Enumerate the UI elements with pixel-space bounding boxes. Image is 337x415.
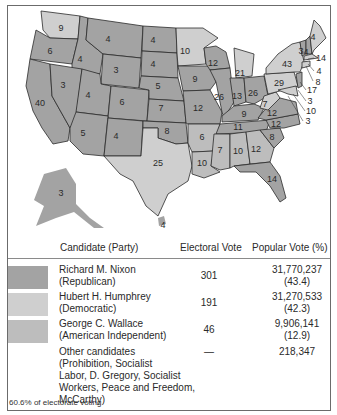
header-candidate: Candidate (Party) — [60, 242, 138, 253]
svg-text:4: 4 — [150, 59, 155, 69]
svg-text:4: 4 — [150, 35, 155, 45]
svg-text:14: 14 — [316, 53, 326, 63]
svg-text:12: 12 — [267, 108, 277, 118]
svg-text:10: 10 — [197, 158, 207, 168]
electoral-vote: 191 — [184, 297, 234, 309]
svg-text:4: 4 — [113, 131, 118, 141]
svg-text:8: 8 — [269, 132, 274, 142]
candidate-party-line: (Prohibition, Socialist — [59, 358, 195, 370]
state-KS — [147, 99, 186, 123]
svg-text:26: 26 — [214, 92, 224, 102]
state-WY — [101, 54, 141, 88]
svg-text:4: 4 — [303, 47, 308, 57]
legend-swatch-republican — [8, 266, 48, 289]
svg-text:4: 4 — [85, 90, 90, 100]
header-popular-vote: Popular Vote (%) — [252, 242, 328, 253]
candidate-party: (American Independent) — [59, 330, 166, 342]
electoral-vote: 301 — [184, 270, 234, 282]
svg-text:3: 3 — [58, 188, 63, 198]
svg-text:5: 5 — [80, 128, 85, 138]
svg-text:10: 10 — [233, 146, 243, 156]
header-electoral-vote: Electoral Vote — [180, 242, 242, 253]
svg-text:4: 4 — [105, 34, 110, 44]
svg-text:11: 11 — [233, 122, 242, 132]
candidate-party: (Republican) — [59, 276, 136, 288]
svg-text:4: 4 — [77, 54, 82, 64]
svg-text:5: 5 — [155, 81, 160, 91]
candidate-party-line: Labor, D. Gregory, Socialist — [59, 370, 195, 382]
svg-text:10: 10 — [306, 106, 316, 116]
svg-text:43: 43 — [282, 59, 292, 69]
map-svg: 9 6 40 4 3 4 3 4 6 5 4 4 4 5 7 8 25 10 9… — [8, 6, 330, 236]
state-FL — [234, 162, 286, 202]
popular-percent: (43.4) — [262, 276, 332, 288]
state-AZ — [70, 112, 108, 156]
candidate-name: George C. Wallace — [59, 318, 166, 330]
results-table-header: Candidate (Party) Electoral Vote Popular… — [8, 236, 330, 259]
state-CO — [108, 86, 149, 121]
svg-text:7: 7 — [158, 103, 163, 113]
state-ND — [142, 26, 177, 53]
candidate-name: Hubert H. Humphrey — [59, 291, 151, 303]
legend-swatch-american-independent — [8, 320, 48, 343]
svg-text:7: 7 — [262, 99, 267, 109]
svg-text:13: 13 — [232, 91, 242, 101]
candidate-party: (Democratic) — [59, 303, 151, 315]
popular-percent: (42.3) — [262, 303, 332, 315]
popular-vote: 218,347 — [262, 346, 332, 358]
svg-text:10: 10 — [180, 46, 190, 56]
svg-text:29: 29 — [274, 78, 284, 88]
election-map-figure: 9 6 40 4 3 4 3 4 6 5 4 4 4 5 7 8 25 10 9… — [7, 5, 331, 411]
electoral-vote: 46 — [184, 324, 234, 336]
turnout-footnote: 60.6% of electorate voting — [9, 398, 102, 407]
svg-text:21: 21 — [235, 68, 245, 78]
candidate-name: Richard M. Nixon — [59, 264, 136, 276]
svg-text:40: 40 — [35, 98, 45, 108]
electoral-vote: — — [184, 346, 234, 358]
state-CT — [302, 61, 310, 68]
svg-text:9: 9 — [192, 74, 197, 84]
popular-vote: 31,770,237 — [262, 264, 332, 276]
popular-percent: (12.9) — [262, 330, 332, 342]
svg-text:3: 3 — [60, 80, 65, 90]
svg-text:4: 4 — [316, 66, 321, 76]
svg-text:6: 6 — [199, 132, 204, 142]
svg-text:7: 7 — [217, 145, 222, 155]
svg-text:25: 25 — [153, 158, 163, 168]
popular-vote: 31,270,533 — [262, 291, 332, 303]
candidate-name: Other candidates — [59, 346, 195, 358]
us-electoral-map: 9 6 40 4 3 4 3 4 6 5 4 4 4 5 7 8 25 10 9… — [8, 6, 330, 236]
svg-text:6: 6 — [119, 97, 124, 107]
svg-text:3: 3 — [113, 65, 118, 75]
state-SD — [141, 51, 178, 78]
popular-vote: 9,906,141 — [262, 318, 332, 330]
svg-text:12: 12 — [208, 58, 218, 68]
svg-text:14: 14 — [267, 174, 277, 184]
svg-text:17: 17 — [307, 85, 317, 95]
svg-text:3: 3 — [305, 116, 310, 126]
candidate-party-line: Workers, Peace and Freedom, — [59, 382, 195, 394]
legend-swatch-democratic — [8, 293, 48, 316]
svg-text:9: 9 — [58, 23, 63, 33]
svg-text:12: 12 — [251, 144, 261, 154]
svg-text:6: 6 — [47, 46, 52, 56]
svg-text:3: 3 — [307, 96, 312, 106]
svg-text:9: 9 — [241, 109, 246, 119]
svg-text:4: 4 — [310, 32, 315, 42]
svg-text:8: 8 — [164, 126, 169, 136]
state-NM — [104, 118, 143, 156]
state-AK — [34, 168, 104, 228]
svg-text:12: 12 — [193, 103, 203, 113]
svg-text:26: 26 — [248, 88, 258, 98]
svg-text:4: 4 — [160, 220, 165, 230]
svg-text:12: 12 — [271, 119, 281, 129]
